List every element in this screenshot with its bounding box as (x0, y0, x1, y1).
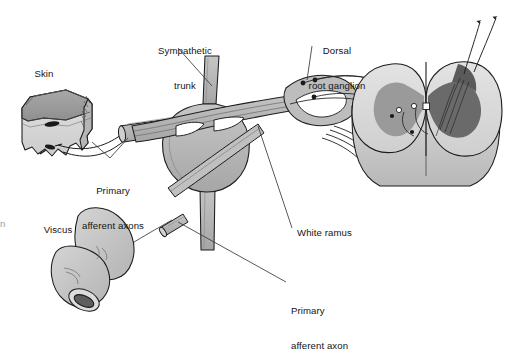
leader-primary-afferent-axon (178, 222, 286, 282)
label-primary-afferent-axon: Primary afferent axon (291, 282, 348, 353)
label-white-ramus: White ramus (297, 227, 352, 239)
label-primary-afferent-axons-line2: afferent axons (82, 220, 144, 232)
label-skin: Skin (34, 68, 53, 80)
label-primary-afferent-axon-line2: afferent axon (291, 340, 348, 352)
label-dorsal-root-ganglion-line1: Dorsal (309, 45, 366, 57)
leader-white-ramus (258, 126, 292, 228)
label-dorsal-root-ganglion-line2: root ganglion (309, 80, 366, 92)
label-primary-afferent-axons-line1: Primary (82, 185, 144, 197)
label-primary-afferent-axon-line1: Primary (291, 305, 348, 317)
label-sympathetic-trunk-line1: Sympathetic (158, 45, 212, 57)
spinal-cord (352, 62, 502, 186)
clipped-caption-fragment: n (0, 218, 7, 230)
label-primary-afferent-axons: Primary afferent axons (82, 162, 144, 255)
label-dorsal-root-ganglion: Dorsal root ganglion (309, 22, 366, 115)
leader-primary-afferent-axons-b (110, 138, 128, 158)
label-sympathetic-trunk-line2: trunk (158, 80, 212, 92)
label-viscus: Viscus (44, 224, 73, 236)
label-sympathetic-trunk: Sympathetic trunk (158, 22, 212, 115)
